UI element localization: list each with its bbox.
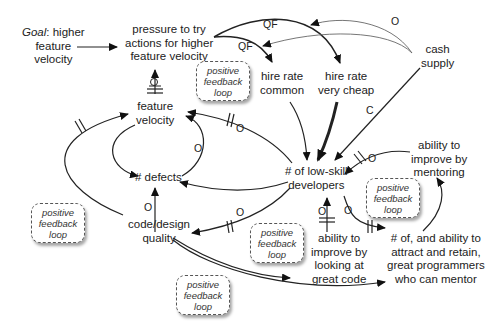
node-feature-velocity: feature velocity xyxy=(136,100,174,127)
loop-callout-top: positive feedback loop xyxy=(196,61,250,101)
node-cash-supply: cash supply xyxy=(421,43,454,70)
loop-line3: loop xyxy=(367,204,419,215)
loop-callout-center: positive feedback loop xyxy=(250,223,304,263)
node-code-design-quality: code/design quality xyxy=(128,218,190,245)
loop-line1: positive xyxy=(177,279,229,290)
feature-velocity-line2: velocity xyxy=(136,114,174,128)
hire-cheap-line2: very cheap xyxy=(318,84,374,98)
code-quality-line1: code/design xyxy=(128,218,190,232)
loop-line1: positive xyxy=(367,182,419,193)
node-hire-common: hire rate common xyxy=(260,70,304,97)
mentoring-line3: mentoring xyxy=(411,166,467,180)
edge-label-o-lowskill-greatprog: O xyxy=(344,204,352,216)
edge-label-o-cash: O xyxy=(391,15,399,27)
mentoring-line1: ability to xyxy=(411,139,467,153)
goal-prefix: Goal xyxy=(22,26,46,38)
great-programmers-line4: who can mentor xyxy=(387,273,485,287)
loop-line2: feedback xyxy=(251,238,303,249)
pressure-line2: actions for higher xyxy=(125,37,213,51)
looking-line4: great code xyxy=(311,273,367,287)
great-programmers-line3: great programmers xyxy=(387,259,485,273)
loop-callout-right: positive feedback loop xyxy=(366,178,420,218)
edge-velocity-defects xyxy=(113,125,138,176)
edge-label-c-cash: C xyxy=(366,104,374,116)
edge-hirecommon-lowskill xyxy=(290,102,307,160)
loop-line3: loop xyxy=(32,229,84,240)
defects-line1: # defects xyxy=(135,171,182,185)
node-great-programmers: # of, and ability to attract and retain,… xyxy=(387,232,485,286)
loop-callout-left: positive feedback loop xyxy=(31,203,85,243)
pressure-line1: pressure to try xyxy=(125,23,213,37)
great-programmers-line2: attract and retain, xyxy=(387,246,485,260)
loop-line1: positive xyxy=(197,65,249,76)
node-looking-at-great-code: ability to improve by looking at great c… xyxy=(311,232,367,286)
edge-label-qf-top: QF xyxy=(263,18,278,30)
edge-label-o-defects-velocity: O xyxy=(194,142,202,154)
great-programmers-line1: # of, and ability to xyxy=(387,232,485,246)
edge-label-o-lowskill-velocity: O xyxy=(236,122,244,134)
edge-lowskill-defects xyxy=(180,182,288,190)
goal-line3: velocity xyxy=(22,53,85,67)
node-pressure: pressure to try actions for higher featu… xyxy=(125,23,213,64)
loop-line3: loop xyxy=(197,87,249,98)
looking-line1: ability to xyxy=(311,232,367,246)
mentoring-line2: improve by xyxy=(411,153,467,167)
edge-label-o-quality-defects: O xyxy=(144,201,152,213)
causal-loop-diagram: QF QF O C O O O O O O O Goal: higher fea… xyxy=(0,0,500,332)
edge-label-qf-bottom: QF xyxy=(238,40,253,52)
loop-line2: feedback xyxy=(197,76,249,87)
loop-line2: feedback xyxy=(367,193,419,204)
edge-greatprog-mentoring xyxy=(423,178,442,231)
feature-velocity-line1: feature xyxy=(136,100,174,114)
node-goal: Goal: higher feature velocity xyxy=(22,26,85,67)
low-skill-line2: developers xyxy=(285,179,348,193)
edge-hirecheap-lowskill xyxy=(318,102,337,160)
edge-cash-o2 xyxy=(263,34,412,53)
node-mentoring: ability to improve by mentoring xyxy=(411,139,467,180)
loop-line3: loop xyxy=(251,249,303,260)
looking-line2: improve by xyxy=(311,246,367,260)
hire-common-line1: hire rate xyxy=(260,70,304,84)
node-low-skill-developers: # of low-skill developers xyxy=(285,165,348,192)
hire-cheap-line1: hire rate xyxy=(318,70,374,84)
node-hire-cheap: hire rate very cheap xyxy=(318,70,374,97)
goal-line1: : higher xyxy=(46,26,84,38)
loop-line3: loop xyxy=(177,301,229,312)
loop-line1: positive xyxy=(251,227,303,238)
loop-line1: positive xyxy=(32,207,84,218)
edge-label-o-lowskill-quality: O xyxy=(236,206,244,218)
loop-line2: feedback xyxy=(32,218,84,229)
edge-label-o-mentoring: O xyxy=(368,152,376,164)
code-quality-line2: quality xyxy=(128,232,190,246)
goal-line2: feature xyxy=(22,40,85,54)
edge-label-o-looking: O xyxy=(318,205,326,217)
hire-common-line2: common xyxy=(260,84,304,98)
cash-line2: supply xyxy=(421,57,454,71)
node-defects: # defects xyxy=(135,171,182,185)
cash-line1: cash xyxy=(421,43,454,57)
loop-callout-bottom: positive feedback loop xyxy=(176,275,230,315)
low-skill-line1: # of low-skill xyxy=(285,165,348,179)
looking-line3: looking at xyxy=(311,259,367,273)
loop-line2: feedback xyxy=(177,290,229,301)
